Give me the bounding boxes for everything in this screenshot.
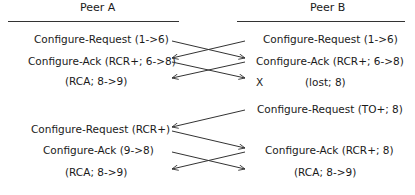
arrow-b-to-a: [172, 110, 245, 127]
arrow-a-to-b: [172, 131, 245, 148]
message-arrows: [0, 0, 415, 195]
